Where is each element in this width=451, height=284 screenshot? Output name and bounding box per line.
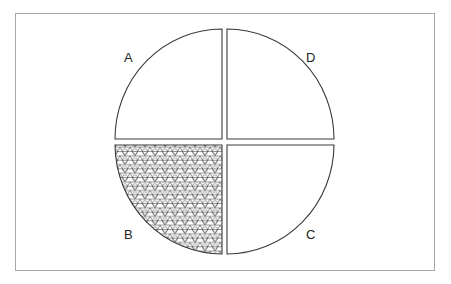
quadrant-b-label: B xyxy=(124,227,133,242)
quadrant-a-label: A xyxy=(124,50,133,65)
quadrant-d-label: D xyxy=(306,50,315,65)
quadrant-a-shape xyxy=(115,29,222,139)
quadrant-b: B xyxy=(115,145,222,254)
quadrant-c: C xyxy=(227,145,334,254)
quadrant-d-shape xyxy=(227,29,334,139)
quadrant-c-shape xyxy=(227,145,334,254)
quadrant-c-label: C xyxy=(306,227,315,242)
quartered-circle-diagram: A D B C xyxy=(0,0,451,284)
quadrant-a: A xyxy=(115,29,222,139)
quadrant-d: D xyxy=(227,29,334,139)
